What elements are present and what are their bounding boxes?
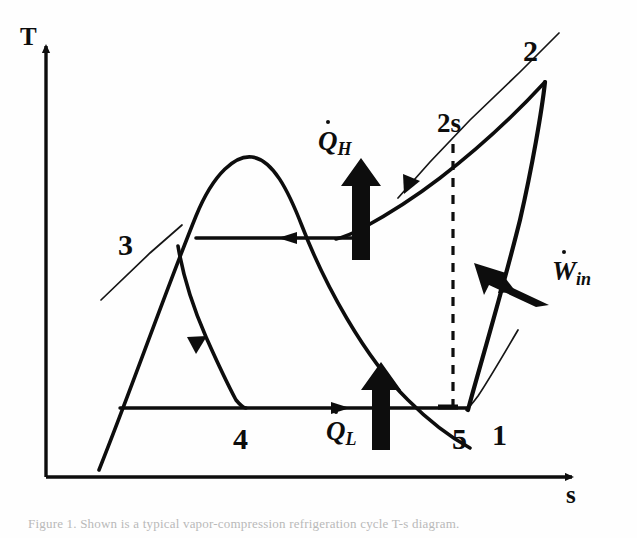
process-1-2-line bbox=[468, 82, 545, 410]
q-h-subscript: H bbox=[338, 139, 352, 159]
saturation-dome bbox=[99, 157, 470, 470]
process-1-2 bbox=[468, 82, 545, 410]
entropy-axis-label: s bbox=[566, 482, 576, 507]
process-3-4 bbox=[178, 246, 246, 408]
q-h-symbol: Q bbox=[318, 128, 338, 155]
ts-diagram-canvas bbox=[0, 0, 637, 538]
figure-caption: Figure 1. Shown is a typical vapor-compr… bbox=[28, 516, 618, 532]
heat-absorption-arrow bbox=[361, 362, 401, 450]
w-in-symbol: W bbox=[552, 258, 576, 285]
state-point-3: 3 bbox=[118, 230, 133, 260]
isobar-left-lowpressure bbox=[101, 225, 182, 300]
figure-root: T s 1 2 2s 3 4 5 QH QL Win Figure 1. Sho… bbox=[0, 0, 637, 538]
isobar-group bbox=[101, 33, 559, 410]
state-point-2s: 2s bbox=[437, 110, 461, 137]
q-h-base: Q bbox=[318, 126, 338, 156]
process-2-3-direction-arrow bbox=[278, 232, 297, 244]
rate-dot-icon bbox=[562, 250, 566, 254]
state-point-5: 5 bbox=[452, 424, 467, 454]
q-l-symbol: Q bbox=[326, 418, 346, 445]
isobar-low-pressure bbox=[466, 330, 518, 410]
work-input-arrow bbox=[474, 263, 549, 307]
work-input-label: Win bbox=[552, 258, 591, 288]
process-3-4-direction-arrow bbox=[187, 336, 207, 354]
heat-absorption-label: QL bbox=[326, 418, 357, 448]
state-point-1: 1 bbox=[492, 420, 507, 450]
axis-group bbox=[46, 46, 572, 477]
process-2-3 bbox=[196, 82, 545, 244]
q-l-subscript: L bbox=[346, 429, 357, 449]
process-3-4-curve bbox=[178, 246, 246, 408]
temperature-axis-label: T bbox=[20, 24, 37, 49]
heat-rejection-label: QH bbox=[318, 128, 352, 158]
w-in-base: W bbox=[552, 256, 576, 286]
w-in-subscript: in bbox=[576, 269, 591, 289]
state-point-2: 2 bbox=[523, 36, 538, 66]
q-l-base: Q bbox=[326, 416, 346, 446]
process-4-5-1 bbox=[120, 402, 468, 414]
heat-rejection-arrow bbox=[341, 158, 381, 260]
state-point-4: 4 bbox=[233, 424, 248, 454]
